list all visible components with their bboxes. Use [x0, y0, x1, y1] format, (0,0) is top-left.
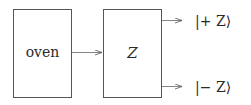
oven-box: oven: [14, 10, 72, 98]
minus-z-label: |− Z⟩: [195, 79, 231, 96]
z-analyzer-box: Z: [104, 10, 162, 98]
plus-z-label: |+ Z⟩: [195, 13, 231, 30]
oven-label: oven: [26, 44, 60, 60]
stern-gerlach-diagram: oven Z |+ Z⟩ |− Z⟩: [0, 0, 251, 105]
z-label: Z: [126, 44, 138, 62]
